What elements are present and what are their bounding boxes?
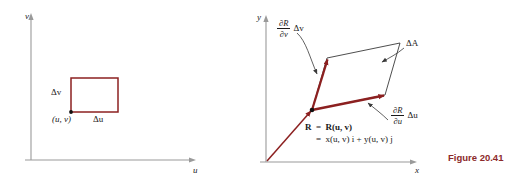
area-parallelogram-outline [312,43,400,110]
delta-u-label: Δu [93,115,103,124]
partial-v-tail: Δv [293,24,303,33]
parameter-rectangle [71,78,118,112]
partial-R-partial-v-label: ∂R ∂v Δv [277,19,304,39]
v-axis-arrowhead [28,13,33,20]
v-axis-label: v [25,12,29,21]
position-vector-equation-line2: = x(u, v) i + y(u, v) j [305,133,393,145]
x-axis-arrowhead [410,159,417,164]
partial-v-leader-line [297,33,317,74]
figure-caption: Figure 20.41 [448,152,503,163]
partial-R-partial-u-label: ∂R ∂u Δu [391,106,418,126]
corner-point-label: (u, v) [52,115,71,124]
partial-R-partial-u-vector [312,96,384,111]
delta-v-label: Δv [51,88,61,97]
delta-A-label: ΔA [406,39,418,48]
x-axis-label: x [415,166,419,175]
partial-v-denominator: ∂v [278,30,290,39]
image-base-point-dot [310,108,315,113]
R-of-u-v: R(u, v) [326,122,353,132]
u-axis-arrowhead [189,157,196,162]
figure-container: v u Δv Δu (u, v) [0,0,508,186]
equals-sign-2: = [316,134,323,144]
u-axis-label: u [193,166,198,175]
partial-u-leader-line [368,103,388,120]
component-expression: x(u, v) i + y(u, v) j [326,134,393,144]
delta-A-leader-line [382,48,404,62]
partial-u-numerator: ∂R [391,106,404,115]
partial-v-numerator: ∂R [277,19,290,28]
uv-plane-drawing [0,0,254,186]
partial-u-denominator: ∂u [391,117,403,126]
position-vector-equation-line1: R = R(u, v) [305,121,393,133]
position-vector-equation: R = R(u, v) = x(u, v) i + y(u, v) j [305,121,393,145]
uv-parameter-plane-panel: v u Δv Δu (u, v) [0,0,254,186]
partial-u-tail: Δu [407,111,417,120]
equals-sign-1: = [314,122,324,132]
y-axis-label: y [257,13,261,22]
y-axis-arrowhead [263,15,268,22]
R-symbol-lhs: R [305,122,312,132]
